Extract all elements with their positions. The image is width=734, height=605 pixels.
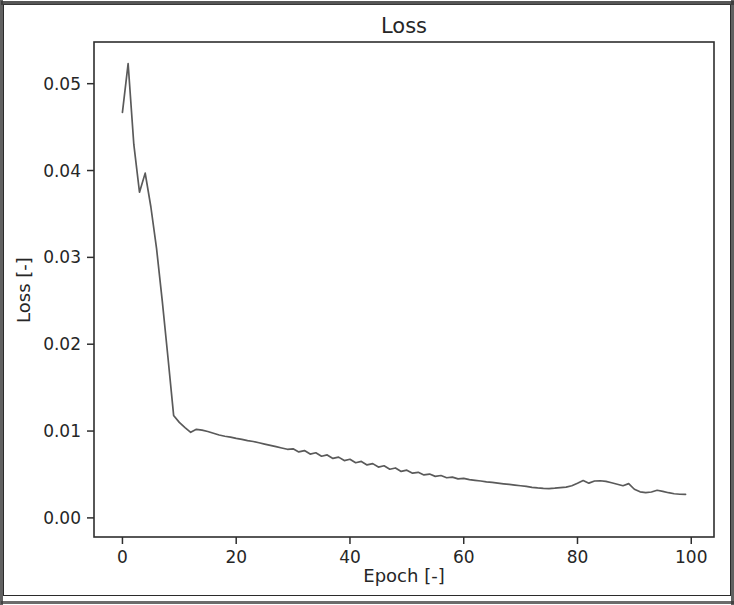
y-tick-label: 0.02 xyxy=(43,334,81,354)
x-tick-label: 80 xyxy=(567,547,589,567)
x-axis-ticks: 020406080100 xyxy=(117,537,707,567)
loss-chart: Loss 020406080100 0.000.010.020.030.040.… xyxy=(0,0,734,605)
data-line-loss xyxy=(122,64,685,495)
chart-title: Loss xyxy=(381,14,427,38)
x-tick-label: 20 xyxy=(225,547,247,567)
data-series-group xyxy=(122,64,685,495)
plot-frame xyxy=(94,42,714,537)
figure-root: Loss 020406080100 0.000.010.020.030.040.… xyxy=(0,0,734,605)
y-axis-ticks: 0.000.010.020.030.040.05 xyxy=(43,74,94,528)
y-axis-label-group: Loss [-] xyxy=(13,257,34,323)
y-tick-label: 0.04 xyxy=(43,161,81,181)
x-tick-label: 0 xyxy=(117,547,128,567)
y-axis-label: Loss [-] xyxy=(13,257,34,323)
y-tick-label: 0.05 xyxy=(43,74,81,94)
y-tick-label: 0.00 xyxy=(43,508,81,528)
x-axis-label-group: Epoch [-] xyxy=(363,565,444,586)
x-tick-label: 100 xyxy=(675,547,707,567)
chart-title-group: Loss xyxy=(381,14,427,38)
x-tick-label: 40 xyxy=(339,547,361,567)
plot-axes-spines xyxy=(94,42,714,537)
x-tick-label: 60 xyxy=(453,547,475,567)
x-axis-label: Epoch [-] xyxy=(363,565,444,586)
y-tick-label: 0.01 xyxy=(43,421,81,441)
y-tick-label: 0.03 xyxy=(43,247,81,267)
